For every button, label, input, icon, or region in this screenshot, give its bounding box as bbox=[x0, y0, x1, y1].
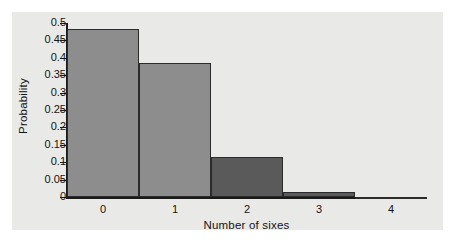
y-tick-label-wrap: 0.05 bbox=[12, 174, 66, 185]
plot-area: 00.050.10.150.20.250.30.350.40.450.5 012… bbox=[0, 0, 457, 250]
y-tick-label: 0.05 bbox=[26, 174, 66, 185]
y-tick-label: 0.15 bbox=[26, 139, 66, 150]
y-tick-label: 0.45 bbox=[26, 34, 66, 45]
x-tick-label: 3 bbox=[304, 203, 334, 215]
x-axis-title: Number of sixes bbox=[66, 219, 427, 231]
y-tick-label: 0.4 bbox=[26, 52, 66, 63]
x-tick-label: 2 bbox=[232, 203, 262, 215]
x-tick-label: 4 bbox=[376, 203, 406, 215]
bar bbox=[355, 197, 427, 199]
y-tick-label-wrap: 0.1 bbox=[12, 156, 66, 167]
y-tick-label: 0.3 bbox=[26, 87, 66, 98]
y-tick-label: 0.1 bbox=[26, 156, 66, 167]
bar bbox=[139, 63, 211, 197]
y-tick-label-wrap: 0.5 bbox=[12, 17, 66, 28]
y-axis-title: Probability bbox=[17, 61, 29, 151]
bar bbox=[211, 157, 283, 197]
x-tick-label: 0 bbox=[88, 203, 118, 215]
y-tick-label: 0.5 bbox=[26, 17, 66, 28]
y-tick-label-wrap: 0.45 bbox=[12, 34, 66, 45]
y-tick-label: 0.35 bbox=[26, 69, 66, 80]
bar bbox=[67, 29, 139, 197]
y-tick-label: 0.2 bbox=[26, 121, 66, 132]
x-tick-label: 1 bbox=[160, 203, 190, 215]
chart-figure: 00.050.10.150.20.250.30.350.40.450.5 012… bbox=[0, 0, 457, 250]
y-tick-label: 0 bbox=[26, 191, 66, 202]
y-tick-label: 0.25 bbox=[26, 104, 66, 115]
y-tick-label-wrap: 0 bbox=[12, 191, 66, 202]
bar bbox=[283, 192, 355, 197]
